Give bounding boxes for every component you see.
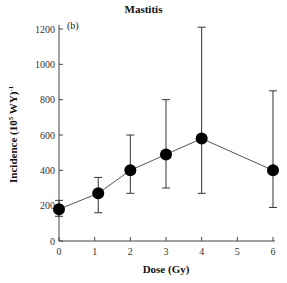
x-tick-label: 5 [235, 246, 240, 257]
y-tick-label: 200 [40, 200, 55, 211]
y-tick-label: 600 [40, 130, 55, 141]
data-point [92, 187, 104, 199]
y-tick-label: 0 [50, 236, 55, 247]
axes: 0123456020040060080010001200 [35, 24, 276, 258]
data-point [196, 133, 208, 145]
data-point [53, 203, 65, 215]
data-point [267, 164, 279, 176]
x-tick-label: 2 [128, 246, 133, 257]
y-tick-label: 1000 [35, 59, 55, 70]
data-point [160, 148, 172, 160]
data-series [53, 27, 279, 216]
plot-area: 0123456020040060080010001200 [0, 0, 287, 283]
x-tick-label: 0 [57, 246, 62, 257]
y-tick-label: 400 [40, 165, 55, 176]
y-tick-label: 1200 [35, 24, 55, 35]
x-tick-label: 1 [92, 246, 97, 257]
data-point [124, 164, 136, 176]
x-tick-label: 6 [271, 246, 276, 257]
x-tick-label: 4 [199, 246, 204, 257]
x-tick-label: 3 [164, 246, 169, 257]
y-tick-label: 800 [40, 94, 55, 105]
